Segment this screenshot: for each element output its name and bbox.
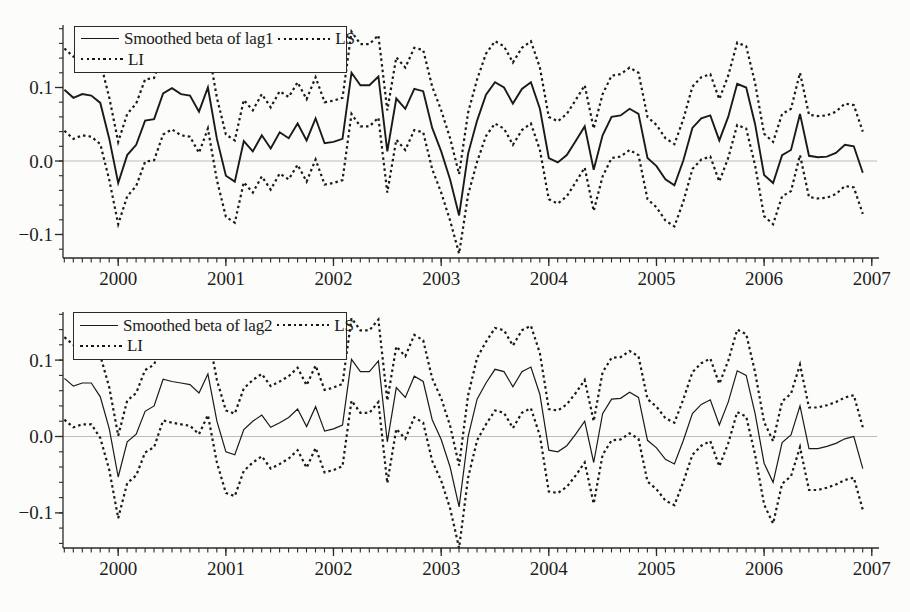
y-tick-label: 0.1 <box>29 350 53 371</box>
x-tick-label: 2007 <box>853 558 891 579</box>
legend-ls-label: LS <box>334 316 353 335</box>
x-tick-label: 2001 <box>207 558 245 579</box>
y-tick-label: 0.1 <box>29 77 53 98</box>
x-tick-label: 2002 <box>315 268 353 289</box>
legend-series-label: Smoothed beta of lag1 <box>124 29 273 48</box>
legend-row-2: LI <box>80 336 340 355</box>
x-tick-label: 2005 <box>638 558 676 579</box>
x-tick-label: 2000 <box>99 558 137 579</box>
legend-series-label: Smoothed beta of lag2 <box>123 316 272 335</box>
chart-canvas: 0.10.0−0.1200020012002200320042005200620… <box>0 0 910 612</box>
y-tick-label: 0.0 <box>29 151 53 172</box>
legend-row-2: LI <box>81 50 340 69</box>
legend-row-1: Smoothed beta of lag1 LS <box>81 29 340 48</box>
legend-li-dotted-sample <box>81 58 123 60</box>
legend-ls-dotted-sample <box>277 324 329 326</box>
figure: 0.10.0−0.1200020012002200320042005200620… <box>0 0 910 612</box>
legend-li-label: LI <box>128 50 144 69</box>
y-tick-label: 0.0 <box>29 426 53 447</box>
legend-lag2: Smoothed beta of lag2 LS LI <box>73 312 347 360</box>
x-tick-label: 2005 <box>638 268 676 289</box>
x-tick-label: 2006 <box>745 558 783 579</box>
x-tick-label: 2004 <box>530 268 569 289</box>
legend-ls-label: LS <box>335 29 354 48</box>
y-tick-label: −0.1 <box>19 224 53 245</box>
legend-lag1: Smoothed beta of lag1 LS LI <box>74 26 347 73</box>
legend-solid-line-sample <box>81 38 119 39</box>
legend-li-dotted-sample <box>80 345 122 347</box>
legend-ls-dotted-sample <box>278 38 330 40</box>
x-tick-label: 2003 <box>422 268 460 289</box>
x-tick-label: 2003 <box>422 558 460 579</box>
legend-solid-line-sample <box>80 325 118 326</box>
y-tick-label: −0.1 <box>19 502 53 523</box>
legend-row-1: Smoothed beta of lag2 LS <box>80 316 340 335</box>
x-tick-label: 2006 <box>745 268 783 289</box>
x-tick-label: 2000 <box>99 268 137 289</box>
x-tick-label: 2001 <box>207 268 245 289</box>
x-tick-label: 2004 <box>530 558 569 579</box>
x-tick-label: 2002 <box>315 558 353 579</box>
x-tick-label: 2007 <box>853 268 891 289</box>
legend-li-label: LI <box>127 336 143 355</box>
